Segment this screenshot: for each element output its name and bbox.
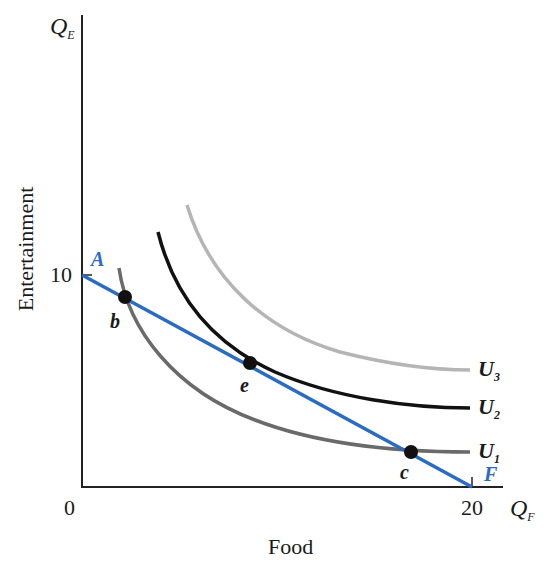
x-axis-symbol: QF	[510, 496, 535, 523]
curve-label-u3: U3	[478, 358, 500, 383]
point-label-e: e	[240, 375, 249, 395]
point-label-c: c	[400, 462, 409, 482]
origin-label: 0	[64, 497, 75, 519]
y-axis-symbol: QE	[50, 14, 75, 41]
point-c	[404, 445, 418, 459]
indifference-curve-u2	[158, 232, 470, 408]
point-b	[118, 290, 132, 304]
curve-label-u2: U2	[478, 396, 500, 421]
point-label-b: b	[110, 311, 120, 331]
curve-label-u1: U1	[478, 440, 500, 465]
x-axis-label: Food	[268, 536, 313, 558]
y-axis-label: Entertainment	[15, 179, 37, 319]
y-tick-label-10: 10	[50, 264, 72, 286]
point-e	[243, 356, 257, 370]
indifference-curve-u1	[119, 268, 470, 452]
indifference-curve-chart	[0, 0, 559, 562]
budget-label-a: A	[91, 249, 104, 269]
x-tick-label-20: 20	[461, 497, 483, 519]
budget-label-f: F	[484, 464, 497, 484]
